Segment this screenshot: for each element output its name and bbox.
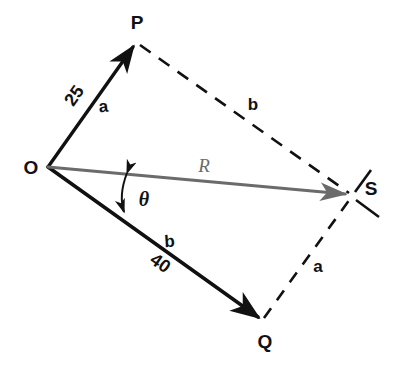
vector-a-line-op [48, 47, 133, 167]
dashed-line-ps [140, 45, 349, 193]
angle-arc-theta [122, 173, 127, 212]
vector-diagram-canvas: O P Q S 25 a b b 40 a R θ [0, 0, 401, 369]
vertex-label-p: P [131, 12, 144, 33]
component-label-a-lower: a [313, 257, 323, 276]
component-label-b-upper: b [248, 95, 258, 114]
component-label-b-lower: b [164, 232, 176, 252]
vector-diagram: O P Q S 25 a b b 40 a R θ [0, 0, 401, 369]
component-label-a-upper: a [98, 97, 110, 117]
magnitude-label-25: 25 [60, 82, 88, 110]
vertex-label-q: Q [258, 331, 273, 352]
vertex-label-s: S [365, 178, 378, 199]
dashed-line-qs [264, 199, 350, 318]
dashed-extension-lower-right [356, 200, 379, 217]
angle-label-theta: θ [139, 188, 150, 210]
resultant-line-os [48, 167, 345, 194]
resultant-label-r: R [197, 155, 210, 176]
vertex-label-o: O [24, 157, 39, 178]
vector-b-line-oq [48, 167, 258, 317]
